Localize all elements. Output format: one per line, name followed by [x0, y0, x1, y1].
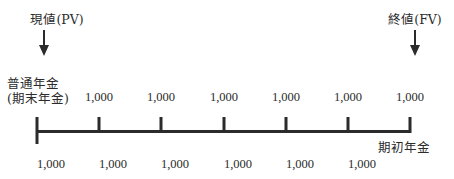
axis-tick [285, 117, 288, 131]
cashflow-amount-above: 1,000 [147, 90, 175, 104]
arrow-head [39, 45, 49, 56]
cashflow-amount-below: 1,000 [161, 157, 189, 171]
cashflow-amount-below: 1,000 [224, 157, 252, 171]
cashflow-amount-above: 1,000 [210, 90, 238, 104]
axis-tick [98, 117, 101, 131]
cashflow-amount-above: 1,000 [396, 90, 424, 104]
future-value-label: 終値(FV) [388, 12, 441, 27]
ordinary-annuity-label-line1: 普通年金 [7, 76, 59, 91]
down-arrow-icon-future-value [408, 30, 422, 56]
cashflow-timeline-figure: 現値(PV) 終値(FV) 普通年金 (期末年金) 1,000 1,000 1,… [0, 0, 454, 179]
present-value-label: 現値(PV) [30, 12, 83, 27]
cashflow-amount-above: 1,000 [85, 90, 113, 104]
axis-tick [36, 117, 39, 144]
cashflow-amount-above: 1,000 [272, 90, 300, 104]
down-arrow-icon-present-value [37, 30, 51, 56]
arrow-head [410, 45, 420, 56]
axis-tick [409, 117, 412, 133]
ordinary-annuity-label-line2: (期末年金) [7, 91, 69, 106]
axis-tick [347, 117, 350, 131]
cashflow-amount-below: 1,000 [37, 157, 65, 171]
cashflow-amount-below: 1,000 [286, 157, 314, 171]
annuity-due-label: 期初年金 [378, 140, 430, 155]
cashflow-amount-below: 1,000 [348, 157, 376, 171]
axis-line [37, 130, 411, 133]
axis-tick [223, 117, 226, 131]
cashflow-amount-below: 1,000 [99, 157, 127, 171]
cashflow-amount-above: 1,000 [334, 90, 362, 104]
axis-tick [160, 117, 163, 131]
